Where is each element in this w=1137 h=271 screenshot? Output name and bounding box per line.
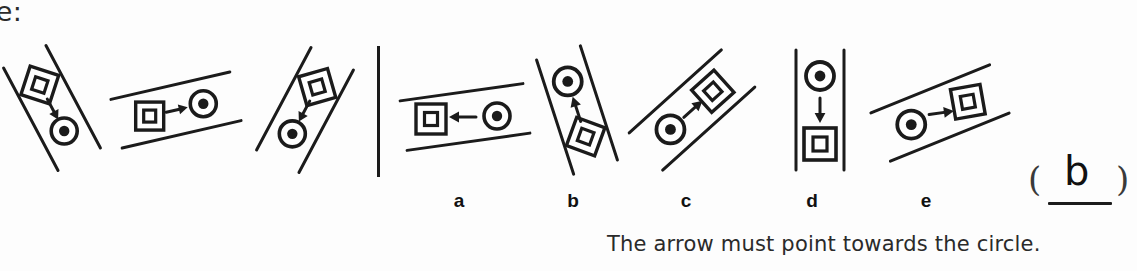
stem-figure-2-drawing	[111, 62, 241, 158]
square-marker	[136, 102, 164, 130]
arrow-icon	[165, 102, 189, 117]
left-parenthesis: (	[1028, 159, 1041, 199]
arrow-icon	[449, 112, 476, 123]
option-label-b[interactable]: b	[567, 190, 579, 212]
option-c-drawing	[629, 50, 755, 170]
circle-marker	[51, 118, 77, 144]
square-marker	[416, 104, 446, 134]
stem-figure-3-drawing	[245, 45, 365, 175]
rail-line	[407, 133, 530, 150]
option-label-a[interactable]: a	[454, 190, 465, 212]
circle-marker	[554, 67, 582, 95]
answer-underline	[1048, 202, 1112, 205]
arrow-icon	[928, 106, 954, 120]
square-marker	[299, 68, 336, 105]
answer-field[interactable]: ( b )	[1028, 157, 1128, 209]
option-b-drawing	[522, 44, 632, 176]
circle-marker	[279, 121, 305, 147]
square-marker	[804, 128, 836, 160]
option-e-drawing	[872, 61, 1008, 165]
circle-marker	[190, 91, 216, 117]
square-marker	[21, 66, 59, 104]
answer-letter[interactable]: b	[1064, 151, 1089, 191]
option-label-c[interactable]: c	[681, 190, 692, 212]
rail-line	[400, 84, 523, 101]
option-label-e[interactable]: e	[921, 190, 932, 212]
explanation-caption: The arrow must point towards the circle.	[607, 232, 1041, 256]
vertical-divider	[377, 46, 380, 177]
option-label-d[interactable]: d	[806, 190, 818, 212]
arrow-icon	[815, 98, 826, 123]
square-marker	[950, 84, 985, 119]
square-marker	[566, 117, 604, 155]
stem-figure-1-drawing	[0, 43, 112, 173]
heading-fragment: ple:	[0, 0, 22, 27]
circle-marker	[806, 62, 834, 90]
circle-marker	[656, 115, 684, 143]
circle-marker	[897, 111, 925, 139]
worksheet-page: ple:	[0, 0, 1137, 271]
option-a-drawing	[399, 71, 531, 163]
option-d-drawing	[774, 44, 866, 176]
circle-marker	[484, 103, 510, 129]
right-parenthesis: )	[1116, 159, 1129, 199]
